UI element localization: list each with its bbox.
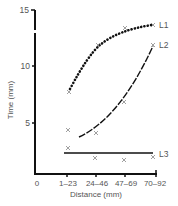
- y-axis: [31, 10, 35, 175]
- series-l3-label: L3: [159, 149, 169, 159]
- x-axis-title: Distance (mm): [70, 190, 122, 199]
- xtick-1-23-label: 1–23: [59, 179, 77, 188]
- series-l1-line: [70, 25, 152, 89]
- series-l1-label: L1: [159, 20, 169, 30]
- ytick-10-label: 10: [21, 61, 31, 71]
- line-chart: 15 10 5 0 1–23 24–46 47–69 70–92 Distanc…: [0, 0, 178, 206]
- series-l2-line: [79, 46, 153, 137]
- ytick-5-label: 5: [25, 118, 30, 128]
- chart-svg: 15 10 5 0 1–23 24–46 47–69 70–92 Distanc…: [0, 0, 178, 206]
- ytick-15-label: 15: [20, 5, 30, 15]
- xtick-24-46-label: 24–46: [86, 179, 109, 188]
- x-origin-label: 0: [35, 179, 40, 188]
- xtick-70-92-label: 70–92: [144, 179, 167, 188]
- xtick-47-69-label: 47–69: [115, 179, 138, 188]
- y-axis-title: Time (mm): [6, 80, 15, 119]
- data-markers: [66, 23, 155, 162]
- series-l2-label: L2: [159, 40, 169, 50]
- x-axis: [34, 170, 157, 177]
